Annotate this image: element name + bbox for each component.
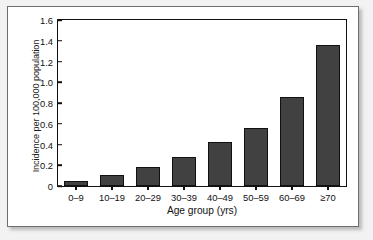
bar-slot: 40–49 [202,20,238,186]
bar-slot: 0–9 [58,20,94,186]
bar-slot: 20–29 [130,20,166,186]
y-tick-label: 0.4 [40,139,58,150]
bar [316,45,340,186]
x-tick-mark [255,186,257,190]
x-tick-label: 40–49 [207,192,233,203]
x-tick-label: 0–9 [68,192,84,203]
y-tick-label: 0.6 [40,118,58,129]
y-tick-label: 0.2 [40,160,58,171]
plot-area: 00.20.40.60.81.01.21.41.6 0–910–1920–293… [57,19,347,187]
y-tick-label: 1.2 [40,56,58,67]
x-tick-mark [75,186,77,190]
x-tick-label: 60–69 [279,192,305,203]
x-tick-mark [291,186,293,190]
x-axis-title: Age group (yrs) [57,205,347,216]
x-tick-label: ≥70 [320,192,336,203]
y-tick-label: 0.8 [40,98,58,109]
x-tick-label: 20–29 [135,192,161,203]
y-tick-label: 1.0 [40,77,58,88]
y-tick-label: 1.6 [40,15,58,26]
x-tick-mark [111,186,113,190]
x-tick-label: 50–59 [243,192,269,203]
bar-slot: 10–19 [94,20,130,186]
x-tick-mark [147,186,149,190]
y-tick-label: 0 [48,181,58,192]
bar-series: 0–910–1920–2930–3940–4950–5960–69≥70 [58,20,346,186]
x-tick-mark [327,186,329,190]
bar [244,128,268,186]
bar-slot: 50–59 [238,20,274,186]
figure-panel: Incidence per 100,000 population 00.20.4… [7,6,359,227]
x-tick-mark [183,186,185,190]
bar [172,157,196,186]
screenshot-root: Incidence per 100,000 population 00.20.4… [0,0,373,240]
bar [208,142,232,186]
bar-slot: 30–39 [166,20,202,186]
bar-slot: ≥70 [310,20,346,186]
bar [136,167,160,186]
bar-chart: Incidence per 100,000 population 00.20.4… [8,7,360,228]
bar [100,175,124,186]
x-tick-mark [219,186,221,190]
x-tick-label: 30–39 [171,192,197,203]
bar [280,97,304,186]
x-tick-label: 10–19 [99,192,125,203]
y-tick-label: 1.4 [40,35,58,46]
plot-inner: 00.20.40.60.81.01.21.41.6 0–910–1920–293… [58,20,346,186]
bar-slot: 60–69 [274,20,310,186]
